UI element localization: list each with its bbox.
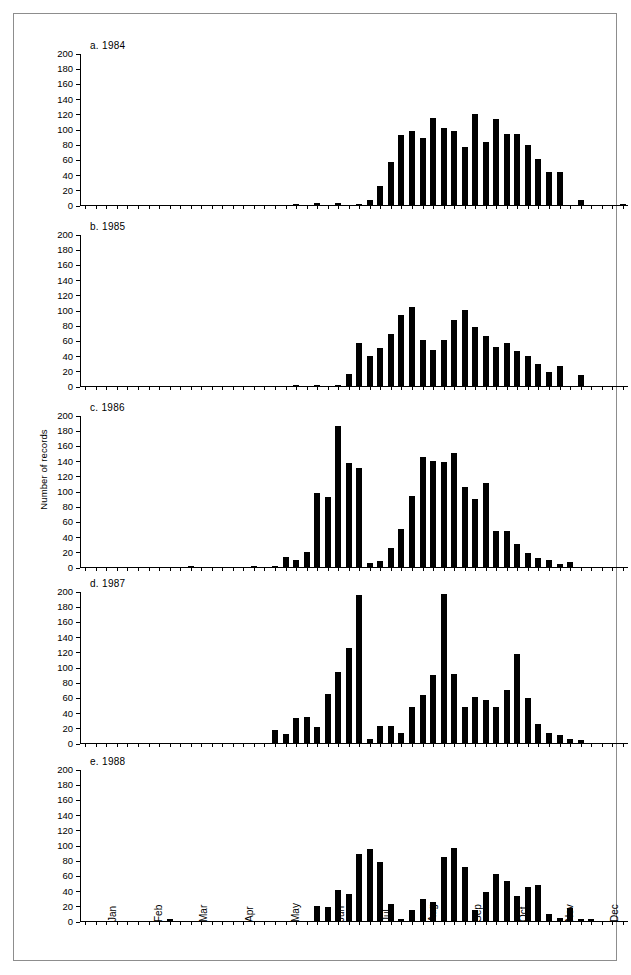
bar (451, 320, 457, 386)
x-axis-tick (191, 206, 192, 209)
bar (356, 343, 362, 386)
bar (398, 315, 404, 386)
y-axis-tick (76, 130, 80, 131)
bar (420, 457, 426, 567)
x-axis-tick (296, 206, 297, 209)
x-axis-tick (349, 206, 350, 209)
x-axis-line (80, 567, 628, 568)
y-axis-tick (76, 190, 80, 191)
x-axis-month-label: Aug (427, 904, 438, 922)
bar (504, 134, 510, 205)
x-axis-tick (475, 744, 476, 747)
x-axis-tick (349, 568, 350, 571)
bar (388, 548, 394, 567)
x-axis-tick (423, 387, 424, 390)
x-axis-tick (317, 387, 318, 390)
bar (335, 203, 341, 205)
x-axis-tick (370, 387, 371, 390)
bar (441, 340, 447, 386)
y-axis-tick (76, 568, 80, 569)
bar (483, 142, 489, 205)
x-axis-month-label: May (290, 903, 301, 922)
x-axis-tick (486, 387, 487, 390)
x-axis-tick (401, 206, 402, 209)
bar (251, 566, 257, 567)
x-axis-tick (286, 387, 287, 390)
bar (420, 138, 426, 205)
bar (557, 918, 563, 921)
x-axis-tick (496, 206, 497, 209)
x-axis-tick (264, 206, 265, 209)
x-axis-tick (454, 744, 455, 747)
y-axis-tick (76, 537, 80, 538)
x-axis-tick (359, 387, 360, 390)
x-axis-tick (149, 387, 150, 390)
y-axis-tick (76, 507, 80, 508)
bar (567, 562, 573, 567)
x-axis-tick (170, 568, 171, 571)
panel-title: d. 1987 (90, 578, 125, 589)
bar (578, 740, 584, 743)
x-axis-tick (549, 744, 550, 747)
bar (535, 558, 541, 567)
y-axis-tick-label: 20 (62, 548, 73, 558)
x-axis-tick (433, 387, 434, 390)
bar (430, 675, 436, 743)
bar (557, 564, 563, 567)
y-axis-tick (76, 876, 80, 877)
y-axis-tick (76, 668, 80, 669)
x-axis-tick (233, 387, 234, 390)
x-axis-tick (328, 387, 329, 390)
y-axis-tick (76, 492, 80, 493)
bar (293, 204, 299, 205)
y-axis-tick-label: 200 (57, 230, 73, 240)
bar (493, 531, 499, 567)
y-axis-tick-label: 60 (62, 871, 73, 881)
x-axis-tick (401, 387, 402, 390)
x-axis-tick (85, 744, 86, 747)
y-axis-tick-label: 80 (62, 502, 73, 512)
bar (472, 499, 478, 567)
bar (409, 307, 415, 386)
y-axis-tick-label: 120 (57, 826, 73, 836)
x-axis-tick (507, 744, 508, 747)
y-axis-tick (76, 431, 80, 432)
x-axis-tick (127, 206, 128, 209)
bar (346, 463, 352, 567)
bar (356, 854, 362, 921)
x-axis-tick (380, 568, 381, 571)
x-axis-tick (433, 568, 434, 571)
x-axis-tick (254, 387, 255, 390)
bar (483, 483, 489, 567)
x-axis-tick (85, 206, 86, 209)
x-axis-tick (212, 568, 213, 571)
x-axis-tick (296, 568, 297, 571)
x-axis-tick (370, 744, 371, 747)
bar (367, 739, 373, 743)
y-axis-tick (76, 416, 80, 417)
y-axis-tick-label: 200 (57, 411, 73, 421)
x-axis-tick (106, 744, 107, 747)
x-axis-tick (370, 206, 371, 209)
y-axis-tick (76, 371, 80, 372)
bar (388, 726, 394, 743)
y-axis-line (80, 54, 81, 206)
x-axis-tick (264, 744, 265, 747)
bar (398, 919, 404, 921)
x-axis-tick (380, 744, 381, 747)
x-axis-month-label: Oct (518, 906, 529, 922)
x-axis-tick (475, 387, 476, 390)
x-axis-tick (159, 387, 160, 390)
x-axis-tick (412, 387, 413, 390)
x-axis-month-label: Apr (244, 906, 255, 922)
y-axis-tick-label: 0 (68, 917, 73, 927)
plot-area: 020406080100120140160180200 (80, 54, 628, 206)
x-axis-tick (117, 206, 118, 209)
x-axis-tick (359, 744, 360, 747)
bar (377, 348, 383, 386)
bar (314, 493, 320, 567)
x-axis-tick (602, 206, 603, 209)
y-axis-tick (76, 592, 80, 593)
x-axis-tick (549, 387, 550, 390)
x-axis-tick (212, 744, 213, 747)
